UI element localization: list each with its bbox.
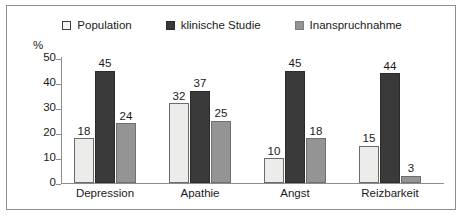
x-axis-category-label: Reizbarkeit — [361, 188, 419, 200]
bar-group: 323725 — [169, 58, 231, 183]
bar-value-label: 3 — [408, 163, 414, 175]
x-axis-category-labels: DepressionApathieAngstReizbarkeit — [62, 188, 442, 206]
bar-value-label: 15 — [363, 133, 376, 145]
x-axis-line — [61, 183, 444, 184]
bar: 18 — [74, 138, 94, 183]
bar-value-label: 44 — [384, 61, 397, 73]
y-axis-tick-labels: 50403020100 — [34, 58, 56, 183]
y-axis-tick-label: 40 — [43, 77, 56, 89]
bar: 24 — [116, 123, 136, 183]
y-axis-tick-mark — [56, 84, 61, 85]
x-axis-category-label: Apathie — [180, 188, 219, 200]
y-axis-tick-mark — [56, 109, 61, 110]
y-axis-tick-label: 10 — [43, 152, 56, 164]
y-axis-unit-label: % — [33, 40, 43, 52]
y-axis-tick-mark — [56, 159, 61, 160]
bar-group: 184524 — [74, 58, 136, 183]
bar-value-label: 45 — [289, 58, 302, 70]
bar: 10 — [264, 158, 284, 183]
chart-container: Population klinische Studie Inanspruchna… — [0, 0, 464, 221]
bar-group: 15443 — [359, 58, 421, 183]
bar: 37 — [190, 91, 210, 184]
bar-value-label: 18 — [310, 126, 323, 138]
bar: 18 — [306, 138, 326, 183]
bar: 15 — [359, 146, 379, 184]
bar: 44 — [380, 73, 400, 183]
bar-value-label: 45 — [99, 58, 112, 70]
plot-area: 18452432372510451815443 — [62, 58, 442, 183]
bar: 45 — [285, 71, 305, 184]
y-axis-tick-label: 50 — [43, 52, 56, 64]
bar: 3 — [401, 176, 421, 184]
x-axis-category-label: Depression — [76, 188, 134, 200]
bar: 45 — [95, 71, 115, 184]
bar: 32 — [169, 103, 189, 183]
bar-value-label: 18 — [78, 126, 91, 138]
y-axis-tick-mark — [56, 59, 61, 60]
bar-group: 104518 — [264, 58, 326, 183]
bar-value-label: 32 — [173, 91, 186, 103]
bar-value-label: 24 — [120, 111, 133, 123]
y-axis-tick-mark — [56, 184, 61, 185]
y-axis-tick-label: 30 — [43, 102, 56, 114]
bar-value-label: 37 — [194, 78, 207, 90]
bar: 25 — [211, 121, 231, 184]
bar-value-label: 25 — [215, 108, 228, 120]
y-axis-tick-mark — [56, 134, 61, 135]
y-axis-tick-label: 20 — [43, 127, 56, 139]
x-axis-category-label: Angst — [280, 188, 309, 200]
bar-value-label: 10 — [268, 146, 281, 158]
